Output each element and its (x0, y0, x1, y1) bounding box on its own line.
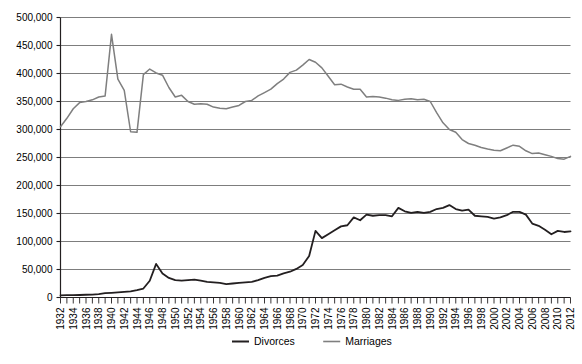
legend-label-divorces: Divorces (254, 335, 295, 347)
x-axis-tick-label: 1934 (68, 307, 79, 330)
x-axis-tick-label: 2006 (527, 307, 538, 330)
x-axis-tick-label: 2000 (489, 307, 500, 330)
x-axis-tick-label: 1984 (387, 307, 398, 330)
x-axis-tick-label: 1970 (297, 307, 308, 330)
y-axis (57, 18, 61, 298)
y-axis-tick-label: 300,000 (16, 124, 53, 135)
x-axis-tick-label: 1960 (234, 307, 245, 330)
x-axis-tick-label: 1988 (412, 307, 423, 330)
x-axis-tick-label: 2012 (565, 307, 576, 330)
x-axis-tick-label: 1958 (221, 307, 232, 330)
x-axis-tick-label: 1946 (144, 307, 155, 330)
x-axis-tick-label: 1968 (285, 307, 296, 330)
x-axis-tick-label: 1962 (246, 307, 257, 330)
gridlines (61, 18, 571, 298)
x-axis-tick-label: 2008 (540, 307, 551, 330)
x-axis-tick-label: 1992 (438, 307, 449, 330)
x-axis-tick-label: 1956 (208, 307, 219, 330)
x-axis-tick-label: 2002 (501, 307, 512, 330)
y-axis-tick-label: 200,000 (16, 180, 53, 191)
x-axis-tick-label: 1982 (374, 307, 385, 330)
x-axis-tick-label: 1964 (259, 307, 270, 330)
x-axis-tick-label: 1986 (399, 307, 410, 330)
x-axis-tick-label: 1942 (119, 307, 130, 330)
y-axis-tick-label: 150,000 (16, 208, 53, 219)
x-axis-tick-label: 1974 (323, 307, 334, 330)
x-axis-tick-label: 1972 (310, 307, 321, 330)
x-axis-tick-label: 1938 (93, 307, 104, 330)
x-axis-tick-label: 1980 (361, 307, 372, 330)
chart-container: 050,000100,000150,000200,000250,000300,0… (0, 0, 582, 364)
x-axis-tick-label: 1978 (348, 307, 359, 330)
line-chart: 050,000100,000150,000200,000250,000300,0… (0, 0, 582, 364)
x-axis-tick-label: 1936 (81, 307, 92, 330)
chart-legend: DivorcesMarriages (232, 335, 392, 347)
x-axis-tick-label: 1990 (425, 307, 436, 330)
y-axis-tick-label: 400,000 (16, 68, 53, 79)
x-axis-tick-label: 1952 (183, 307, 194, 330)
series-line-marriages (61, 34, 571, 159)
y-axis-tick-label: 100,000 (16, 236, 53, 247)
x-axis (61, 298, 571, 304)
x-axis-tick-label: 2004 (514, 307, 525, 330)
x-axis-tick-label: 1940 (106, 307, 117, 330)
y-axis-tick-label: 0 (47, 292, 53, 303)
x-axis-tick-label: 1954 (195, 307, 206, 330)
legend-label-marriages: Marriages (345, 335, 392, 347)
x-axis-tick-label: 1944 (132, 307, 143, 330)
y-axis-tick-labels: 050,000100,000150,000200,000250,000300,0… (16, 12, 53, 303)
x-axis-tick-label: 1966 (272, 307, 283, 330)
x-axis-tick-label: 1948 (157, 307, 168, 330)
x-axis-tick-label: 1994 (450, 307, 461, 330)
x-axis-tick-labels: 1932193419361938194019421944194619481950… (55, 307, 576, 330)
x-axis-tick-label: 1976 (336, 307, 347, 330)
y-axis-tick-label: 500,000 (16, 12, 53, 23)
y-axis-tick-label: 50,000 (22, 264, 53, 275)
y-axis-tick-label: 350,000 (16, 96, 53, 107)
y-axis-tick-label: 250,000 (16, 152, 53, 163)
x-axis-tick-label: 1950 (170, 307, 181, 330)
y-axis-tick-label: 450,000 (16, 40, 53, 51)
x-axis-tick-label: 1932 (55, 307, 66, 330)
series-line-divorces (61, 205, 571, 295)
x-axis-tick-label: 1998 (476, 307, 487, 330)
x-axis-tick-label: 2010 (552, 307, 563, 330)
x-axis-tick-label: 1996 (463, 307, 474, 330)
